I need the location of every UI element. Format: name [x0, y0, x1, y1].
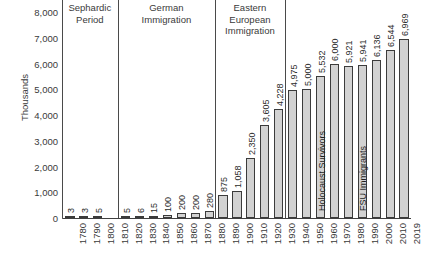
x-axis-tick-label: 1880: [216, 223, 227, 244]
plot-area: 33556151002002002808751,0582,3503,6054,2…: [62, 12, 411, 219]
x-axis-tick-label: 1920: [272, 223, 283, 244]
x-axis-tick-label: 2019: [411, 223, 422, 244]
bar: 4,975: [288, 90, 297, 218]
period-label-eastern-european-immigration: Eastern European Immigration: [215, 2, 285, 37]
bar: 875: [218, 195, 227, 218]
x-axis-tick-label: 1850: [174, 223, 185, 244]
x-axis-tick-label: 1870: [202, 223, 213, 244]
y-axis-tick-label: 2,000: [14, 161, 58, 172]
x-axis-tick-label: 2000: [383, 223, 394, 244]
bar-value-label: 875: [219, 177, 229, 192]
bar-value-label: 3: [65, 208, 75, 213]
x-axis-tick-label: 1990: [369, 223, 380, 244]
bar: 6,969: [399, 39, 408, 218]
bar-value-label: 6,544: [386, 24, 396, 47]
bar: 6,544: [386, 50, 395, 219]
bar: 5: [121, 216, 130, 218]
bar: 5,000: [302, 89, 311, 218]
period-label-german-immigration: German Immigration: [118, 2, 215, 25]
bar: 3,605: [260, 125, 269, 218]
x-axis-tick-label: 1950: [314, 223, 325, 244]
bar-value-label: 5,000: [302, 64, 312, 87]
bar-value-label: 5: [121, 208, 131, 213]
bar-value-label: 4,228: [274, 84, 284, 107]
bar: 5,532Holocaust Survivors: [316, 76, 325, 218]
bar: 6: [135, 216, 144, 218]
bar-inner-label: FSU Immigrants: [358, 146, 368, 211]
bar: 200: [191, 213, 200, 218]
bar-value-label: 15: [149, 203, 159, 213]
bar-value-label: 5,941: [358, 40, 368, 63]
bar: 5,941FSU Immigrants: [358, 65, 367, 218]
bar: 15: [149, 216, 158, 218]
bar: 3: [65, 216, 74, 218]
bar: 6,136: [372, 60, 381, 218]
period-divider: [118, 0, 119, 218]
x-axis-tick-label: 1890: [230, 223, 241, 244]
period-divider: [285, 0, 286, 218]
bar: 280: [205, 211, 214, 218]
bar-inner-label: Holocaust Survivors: [316, 131, 326, 211]
y-axis-tick-label: 5,000: [14, 84, 58, 95]
y-axis-tick-label: 7,000: [14, 32, 58, 43]
bar-value-label: 2,350: [246, 132, 256, 155]
bar: 1,058: [232, 191, 241, 218]
bar: 5,921: [344, 66, 353, 218]
bar-value-label: 200: [191, 195, 201, 210]
bar-value-label: 5,921: [344, 40, 354, 63]
x-axis-tick-label: 1910: [258, 223, 269, 244]
x-axis-tick-label: 1940: [300, 223, 311, 244]
x-axis-tick-label: 1900: [244, 223, 255, 244]
bar-value-label: 5,532: [316, 50, 326, 73]
bar: 3: [79, 216, 88, 218]
x-axis-tick-label: 1930: [286, 223, 297, 244]
bar-value-label: 1,058: [232, 165, 242, 188]
bar: 4,228: [274, 109, 283, 218]
x-axis-tick-label: 1830: [147, 223, 158, 244]
x-axis-tick-label: 1820: [133, 223, 144, 244]
x-axis-tick-label: 1780: [77, 223, 88, 244]
bar-value-label: 3,605: [260, 100, 270, 123]
y-axis: 8,0007,0006,0005,0004,0003,0002,0001,000…: [12, 0, 58, 262]
bar: 5: [93, 216, 102, 218]
x-axis-tick-label: 1960: [328, 223, 339, 244]
y-axis-tick-label: 0: [14, 213, 58, 224]
bar-value-label: 4,975: [288, 64, 298, 87]
period-divider: [62, 0, 63, 218]
x-axis: 1780179018001810182018301840185018601870…: [62, 219, 410, 262]
bar-value-label: 3: [79, 208, 89, 213]
y-axis-tick-label: 1,000: [14, 187, 58, 198]
bar: 100: [163, 215, 172, 218]
bar-value-label: 6,969: [400, 13, 410, 36]
y-axis-tick-label: 8,000: [14, 7, 58, 18]
x-axis-tick-label: 1860: [188, 223, 199, 244]
bar-value-label: 100: [163, 197, 173, 212]
bar-value-label: 5: [93, 208, 103, 213]
x-axis-tick-label: 1970: [341, 223, 352, 244]
bar-value-label: 280: [205, 193, 215, 208]
x-axis-tick-label: 1980: [355, 223, 366, 244]
y-axis-tick-label: 6,000: [14, 58, 58, 69]
bar-value-label: 200: [177, 195, 187, 210]
bar: 2,350: [246, 158, 255, 219]
y-axis-tick-label: 4,000: [14, 110, 58, 121]
x-axis-tick-label: 2010: [397, 223, 408, 244]
bar: 6,000: [330, 64, 339, 219]
y-axis-tick-label: 3,000: [14, 135, 58, 146]
x-axis-tick-label: 1840: [160, 223, 171, 244]
x-axis-tick-label: 1810: [119, 223, 130, 244]
x-axis-tick-label: 1800: [105, 223, 116, 244]
period-label-sephardic-period: Sephardic Period: [62, 2, 118, 25]
x-axis-tick-label: 1790: [91, 223, 102, 244]
bar-value-label: 6,136: [372, 34, 382, 57]
bar-value-label: 6,000: [330, 38, 340, 61]
bar: 200: [177, 213, 186, 218]
bar-value-label: 6: [135, 208, 145, 213]
